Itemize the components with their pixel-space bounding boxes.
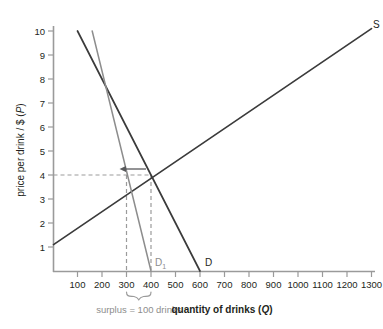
x-tick-label: 200: [94, 279, 110, 290]
chart-canvas: 1 2 3 4 5 6 7 8 9 10 100 2: [0, 0, 383, 329]
y-tick-label: 3: [40, 194, 45, 205]
economics-supply-demand-chart: 1 2 3 4 5 6 7 8 9 10 100 2: [0, 0, 383, 329]
x-tick-label: 300: [119, 279, 135, 290]
y-tick-label: 9: [40, 50, 45, 61]
demand-curve-D1-shifted: [92, 31, 151, 271]
x-axis-ticks: 100 200 300 400 500 600 700 800 900 1000…: [70, 272, 383, 291]
guide-lines-group: [54, 175, 152, 271]
x-axis-title: quantity of drinks (Q): [171, 304, 272, 315]
x-tick-label: 1200: [336, 279, 357, 290]
x-tick-label: 400: [143, 279, 159, 290]
x-axis-title-text: quantity of drinks (: [171, 304, 262, 315]
curve-labels-group: S D D1: [155, 19, 380, 270]
y-tick-label: 7: [40, 98, 45, 109]
y-axis-title-text: price per drink / $ (: [15, 113, 26, 197]
y-tick-label: 6: [40, 122, 45, 133]
curves-group: [54, 29, 372, 271]
x-tick-label: 700: [217, 279, 233, 290]
axes-group: [53, 26, 375, 272]
y-tick-label: 4: [40, 170, 45, 181]
x-tick-label: 500: [168, 279, 184, 290]
x-tick-label: 1100: [312, 279, 332, 290]
surplus-annotation-label: surplus = 100 drinks: [96, 304, 182, 315]
curve-label-demand-shifted-subscript: 1: [162, 263, 166, 270]
curve-label-demand: D: [205, 257, 212, 268]
x-tick-label: 600: [192, 279, 208, 290]
curve-label-demand-shifted-letter: D: [155, 257, 162, 268]
supply-curve-S: [54, 29, 372, 245]
shift-arrow-head: [120, 166, 127, 172]
x-tick-label: 100: [70, 279, 86, 290]
y-axis-title: price per drink / $ (P): [15, 103, 26, 196]
x-axis-title-close: ): [269, 304, 272, 315]
x-tick-label: 1000: [287, 279, 308, 290]
y-tick-label: 8: [40, 74, 45, 85]
y-axis-title-close: ): [15, 103, 26, 106]
y-tick-label: 5: [40, 146, 45, 157]
surplus-brace-path: [127, 292, 152, 300]
x-tick-label: 800: [241, 279, 257, 290]
surplus-brace: [127, 292, 152, 300]
x-tick-label: 1300: [361, 279, 382, 290]
curve-label-supply: S: [373, 19, 380, 30]
leftward-shift-arrow: [120, 166, 147, 172]
y-axis-ticks: 1 2 3 4 5 6 7 8 9 10: [34, 26, 53, 253]
y-tick-label: 10: [34, 26, 45, 37]
y-tick-label: 1: [40, 242, 45, 253]
y-tick-label: 2: [40, 218, 45, 229]
curve-label-demand-shifted: D1: [155, 257, 166, 270]
x-tick-label: 900: [266, 279, 282, 290]
demand-curve-D: [78, 31, 201, 271]
